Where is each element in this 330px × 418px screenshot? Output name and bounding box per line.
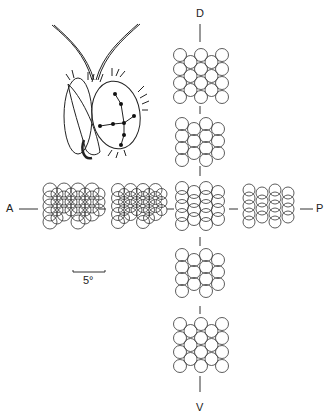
eye-point bbox=[122, 121, 126, 125]
ommatidium-circle bbox=[71, 215, 85, 229]
ommatidium-circle bbox=[200, 130, 213, 143]
ommatidium-circle bbox=[269, 216, 281, 228]
bristles bbox=[66, 68, 149, 158]
ommatidium-circle bbox=[57, 199, 71, 213]
ommatidium-circle bbox=[195, 91, 208, 104]
ommatidium-circle bbox=[57, 183, 71, 197]
ommatidium-circle bbox=[149, 184, 162, 197]
ommatidium-circle bbox=[176, 142, 189, 155]
eye-point bbox=[122, 133, 126, 137]
ommatidium-circle bbox=[200, 285, 213, 298]
proboscis-loop bbox=[82, 140, 92, 158]
ommatidium-circle bbox=[176, 249, 189, 262]
ommatidium-circle bbox=[124, 184, 137, 197]
ommatidium-circle bbox=[85, 191, 99, 205]
scale-bar-label: 5° bbox=[83, 274, 94, 286]
ommatidium-circle bbox=[137, 208, 150, 221]
ommatidium-circle bbox=[200, 118, 213, 131]
ommatidium-circle bbox=[216, 49, 229, 62]
head-left-lobe bbox=[64, 78, 92, 154]
ommatidium-circle bbox=[200, 249, 213, 262]
ommatidium-circle bbox=[216, 332, 229, 345]
ommatidium-circle bbox=[137, 200, 150, 213]
ommatidium-circle bbox=[176, 118, 189, 131]
ommatidium-circle bbox=[112, 216, 125, 229]
ommatidium-circle bbox=[188, 213, 201, 226]
compound-eye bbox=[88, 78, 145, 152]
ommatidium-circle bbox=[137, 216, 150, 229]
ommatidium-circle bbox=[188, 254, 201, 267]
ommatidium-circle bbox=[216, 91, 229, 104]
ommatidium-circle bbox=[216, 346, 229, 359]
ommatidium-circle bbox=[176, 285, 189, 298]
ommatidium-circle bbox=[216, 77, 229, 90]
ommatidium-circle bbox=[174, 360, 187, 373]
ommatidium-circle bbox=[85, 207, 99, 221]
ommatidium-circle bbox=[212, 213, 225, 226]
ommatidium-circle bbox=[188, 147, 201, 160]
ommatidium-circle bbox=[112, 192, 125, 205]
ommatidium-circle bbox=[216, 318, 229, 331]
ommatidium-circle bbox=[149, 192, 162, 205]
antenna-right-edge bbox=[96, 24, 138, 80]
ommatidium-circle bbox=[112, 200, 125, 213]
label-ventral: V bbox=[196, 401, 203, 413]
ommatidium-circle bbox=[212, 278, 225, 291]
ommatidium-circle bbox=[212, 266, 225, 279]
ommatidium-circle bbox=[188, 278, 201, 291]
ommatidium-circle bbox=[176, 273, 189, 286]
insect-head-drawing bbox=[52, 24, 149, 158]
ommatidium-circle bbox=[57, 191, 71, 205]
ommatidium-circle bbox=[282, 211, 294, 223]
ommatidium-circle bbox=[137, 184, 150, 197]
ommatidium-circle bbox=[43, 199, 57, 213]
eye-point bbox=[98, 124, 102, 128]
antenna-left-edge bbox=[54, 25, 94, 80]
ommatidium-circle bbox=[200, 142, 213, 155]
ommatidium-circle bbox=[176, 261, 189, 274]
ommatidium-circle bbox=[174, 91, 187, 104]
ommatidium-circle bbox=[216, 63, 229, 76]
ommatidium-circle bbox=[43, 183, 57, 197]
ommatidium-circle bbox=[212, 123, 225, 136]
ommatidium-circle bbox=[149, 200, 162, 213]
ommatidium-circle bbox=[256, 211, 268, 223]
ommatidium-circle bbox=[195, 360, 208, 373]
eye-point bbox=[119, 102, 123, 106]
ommatidium-circle bbox=[137, 192, 150, 205]
label-posterior: P bbox=[316, 202, 323, 214]
ommatidium-circle bbox=[188, 266, 201, 279]
scale-bar bbox=[73, 270, 105, 272]
ommatidium-circle bbox=[112, 208, 125, 221]
ommatidium-circle bbox=[200, 261, 213, 274]
eye-point bbox=[113, 92, 117, 96]
ommatidium-circle bbox=[188, 123, 201, 136]
eye-point bbox=[111, 122, 115, 126]
ommatidium-circle bbox=[212, 147, 225, 160]
ommatidium-circle bbox=[124, 192, 137, 205]
ommatidium-circle bbox=[176, 130, 189, 143]
ommatidium-circle bbox=[124, 208, 137, 221]
ommatidium-circle bbox=[43, 191, 57, 205]
ommatidium-circle bbox=[212, 135, 225, 148]
diagram-canvas bbox=[0, 0, 330, 418]
ommatidium-circle bbox=[200, 154, 213, 167]
eye-sampling-grid bbox=[100, 94, 134, 145]
ommatidium-circle bbox=[85, 183, 99, 197]
ommatidium-circle bbox=[112, 184, 125, 197]
antenna-right bbox=[98, 24, 140, 80]
label-anterior: A bbox=[6, 202, 13, 214]
ommatidium-circle bbox=[71, 207, 85, 221]
ommatidium-circle bbox=[124, 200, 137, 213]
ommatidium-circle bbox=[71, 183, 85, 197]
ommatidium-circle bbox=[43, 215, 57, 229]
ommatidium-circle bbox=[243, 216, 255, 228]
ommatidium-circle bbox=[149, 208, 162, 221]
ommatidium-circle bbox=[188, 135, 201, 148]
label-dorsal: D bbox=[196, 7, 204, 19]
eye-point bbox=[132, 114, 136, 118]
ommatidium-circle bbox=[176, 218, 189, 231]
ommatidium-circle bbox=[57, 207, 71, 221]
ommatidium-circle bbox=[85, 199, 99, 213]
ommatidium-circle bbox=[71, 199, 85, 213]
